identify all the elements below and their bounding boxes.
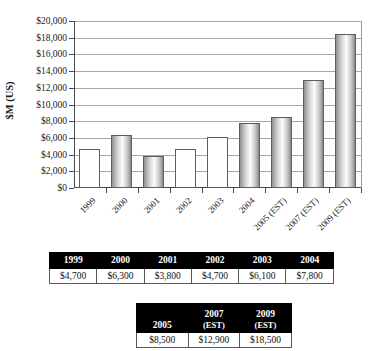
table-value-cell: $4,700	[191, 268, 238, 283]
table-value-cell: $4,700	[50, 268, 97, 283]
bar-2003	[207, 137, 228, 188]
y-axis-tick-label: $12,000	[5, 83, 67, 93]
table-header-cell: 2003	[239, 253, 286, 269]
table-value-cell: $8,500	[137, 333, 189, 348]
x-axis-tick-mark	[170, 188, 171, 193]
bar-2001	[143, 156, 164, 188]
y-axis-tick-label: $2,000	[5, 166, 67, 176]
table-header-cell: 2004	[286, 253, 333, 269]
table-header-year: 2007	[189, 309, 240, 320]
table-header-cell: 2005	[137, 304, 189, 333]
bar-2000	[111, 135, 132, 188]
bar-chart-figure: $M (US) $20,000$18,000$16,000$14,000$12,…	[0, 0, 372, 248]
table-header-est: (EST)	[189, 320, 240, 331]
x-axis-tick-mark	[329, 188, 330, 193]
table-header-cell: 1999	[50, 253, 97, 269]
table-value-cell: $7,800	[286, 268, 333, 283]
y-axis-tick-label: $6,000	[5, 133, 67, 143]
y-axis-tick-mark	[69, 188, 74, 189]
y-axis-tick-label: $4,000	[5, 150, 67, 160]
table-header-cell: 2009(EST)	[240, 304, 292, 333]
table-row: 20052007(EST)2009(EST)	[137, 304, 292, 333]
bar-series	[74, 21, 361, 188]
y-axis-tick-label: $18,000	[5, 33, 67, 43]
x-axis-tick-mark	[361, 188, 362, 193]
table-value-cell: $6,300	[97, 268, 144, 283]
table-header-year: 2009	[240, 309, 291, 320]
table-value-cell: $18,500	[240, 333, 292, 348]
table-header-cell: 2007(EST)	[188, 304, 240, 333]
y-axis-tick-label: $20,000	[5, 16, 67, 26]
x-axis-tick-mark	[202, 188, 203, 193]
table-header-year: 2005	[153, 320, 172, 330]
table-row: $4,700$6,300$3,800$4,700$6,100$7,800	[50, 268, 334, 283]
table-header-cell: 2002	[191, 253, 238, 269]
table-value-cell: $12,900	[188, 333, 240, 348]
x-axis-tick-mark	[297, 188, 298, 193]
table-value-cell: $6,100	[239, 268, 286, 283]
plot-frame-right-border	[361, 21, 362, 188]
x-axis-tick-mark	[265, 188, 266, 193]
table-row: $8,500$12,900$18,500	[137, 333, 292, 348]
bar-2007-est-	[303, 80, 324, 188]
y-axis-tick-label: $0	[5, 183, 67, 193]
table-header-est: (EST)	[240, 320, 291, 331]
data-table-2005-2009: 20052007(EST)2009(EST) $8,500$12,900$18,…	[136, 303, 292, 348]
bar-2009-est-	[335, 34, 356, 188]
x-axis-tick-mark	[106, 188, 107, 193]
table-header-cell: 2001	[144, 253, 191, 269]
table-value-cell: $3,800	[144, 268, 191, 283]
bar-2005-est-	[271, 117, 292, 188]
x-axis-tick-mark	[233, 188, 234, 193]
bar-1999	[79, 149, 100, 188]
y-axis-tick-label: $16,000	[5, 49, 67, 59]
data-table-1999-2004: 199920002001200220032004 $4,700$6,300$3,…	[49, 252, 334, 284]
y-axis-tick-label: $10,000	[5, 100, 67, 110]
x-axis-tick-mark	[138, 188, 139, 193]
y-axis-tick-label: $14,000	[5, 66, 67, 76]
y-axis-tick-label: $8,000	[5, 116, 67, 126]
table-header-cell: 2000	[97, 253, 144, 269]
bar-2004	[239, 123, 260, 188]
table-row: 199920002001200220032004	[50, 253, 334, 269]
bar-2002	[175, 149, 196, 188]
